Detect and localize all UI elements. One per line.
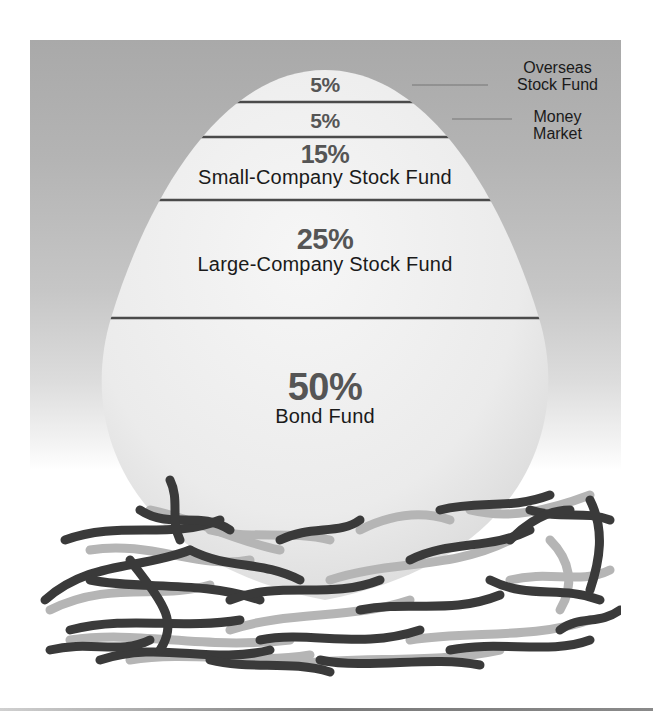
segment-bond-fund: 50% Bond Fund [175,368,475,427]
segment-small-company: 15% Small-Company Stock Fund [125,142,525,188]
callout-line-2: Stock Fund [500,77,615,94]
diagram-frame: 5% 5% 15% Small-Company Stock Fund 25% L… [30,40,621,680]
callout-line-2: Market [510,126,605,143]
segment-label: Large-Company Stock Fund [125,254,525,275]
callout-money-market: Money Market [510,109,605,143]
percent-value: 15% [125,142,525,167]
segment-money-market-percent: 5% [275,110,375,131]
percent-value: 25% [125,225,525,254]
segment-large-company: 25% Large-Company Stock Fund [125,225,525,275]
callout-line-1: Money [510,109,605,126]
segment-overseas-percent: 5% [275,74,375,95]
segment-label: Bond Fund [175,406,475,427]
percent-value: 50% [175,368,475,406]
callout-overseas-stock-fund: Overseas Stock Fund [500,60,615,94]
percent-value: 5% [275,74,375,95]
segment-label: Small-Company Stock Fund [125,167,525,188]
callout-line-1: Overseas [500,60,615,77]
percent-value: 5% [275,110,375,131]
